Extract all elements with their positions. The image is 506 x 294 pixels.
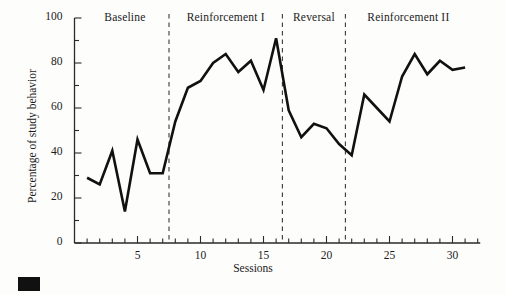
x-tick-label: 5 <box>118 249 158 261</box>
x-tick-label: 10 <box>181 249 221 261</box>
y-tick-label: 0 <box>0 235 63 247</box>
x-tick-label: 15 <box>244 249 284 261</box>
x-tick-label: 30 <box>433 249 473 261</box>
axis-ticks <box>75 18 478 243</box>
x-tick-label: 25 <box>370 249 410 261</box>
y-axis-title: Percentage of study behavior <box>26 56 38 216</box>
y-tick-label: 100 <box>0 10 63 22</box>
x-axis-title: Sessions <box>0 262 506 274</box>
x-tick-label: 20 <box>307 249 347 261</box>
figure-container: BaselineReinforcement IReversalReinforce… <box>0 0 506 294</box>
black-square-marker <box>18 277 40 291</box>
data-line-series <box>87 38 465 211</box>
phase-label-reinforcement-ii: Reinforcement II <box>338 11 478 23</box>
phase-divider-lines <box>169 14 345 243</box>
